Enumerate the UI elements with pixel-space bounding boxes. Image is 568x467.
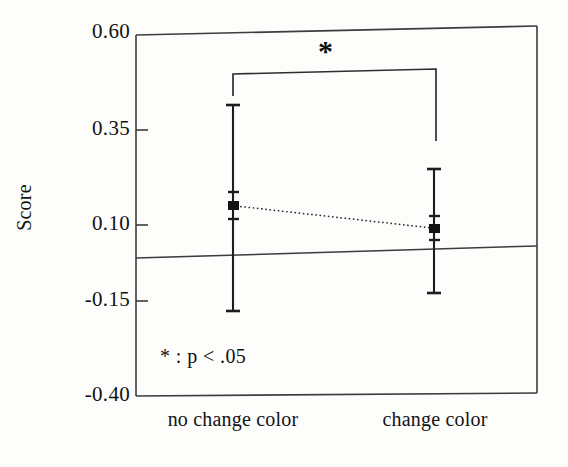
y-tick-label-0: 0.60 [38,19,130,44]
significance-asterisk: * [318,36,333,66]
zero-reference-line [136,246,537,258]
significance-bracket [233,69,436,141]
frame-top [136,26,537,35]
plot-frame [136,26,537,396]
datapoint-change-color [427,169,441,293]
mean-marker-left [228,201,239,210]
y-tick-label-4: -0.40 [38,382,130,407]
mean-connector-line [236,206,432,228]
x-tick-label-change-color: change color [355,408,515,431]
y-tick-label-1: 0.35 [38,116,130,141]
p-value-note: * : p < .05 [160,345,246,368]
y-tick-label-3: -0.15 [38,287,130,312]
y-tick-marks [136,130,148,301]
y-tick-label-2: 0.10 [38,211,130,236]
mean-marker-right [429,224,440,233]
frame-bottom-axis [136,393,537,396]
x-tick-label-no-change-color: no change color [143,408,323,431]
y-axis-title: Score [13,148,36,268]
significance-bracket-path [233,69,436,141]
datapoint-no-change-color [226,105,240,311]
figure-container: Score 0.60 0.35 0.10 -0.15 -0.40 * * : p… [0,0,568,467]
